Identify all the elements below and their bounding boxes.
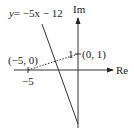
line-y-equals-minus5x-minus12 xyxy=(42,24,78,124)
imaginary-axis-label: Im xyxy=(73,4,85,15)
line-equation-label: y= −5x − 12 xyxy=(9,8,63,19)
tick-label-1: 1 xyxy=(68,49,74,60)
tick-label-minus5: −5 xyxy=(22,76,34,87)
point-label-0-1: (0, 1) xyxy=(82,49,106,60)
real-axis-label: Re xyxy=(116,65,128,76)
equation-rhs: = −5x − 12 xyxy=(14,7,63,19)
point-label-minus5-0: (−5, 0) xyxy=(8,55,38,66)
